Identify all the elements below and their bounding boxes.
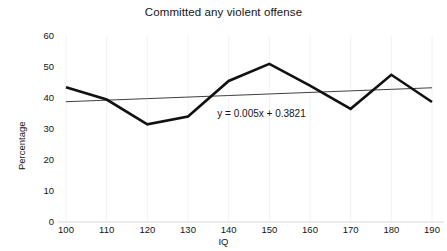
chart-container: Committed any violent offense Percentage… — [0, 0, 447, 251]
trendline-equation-annotation: y = 0.005x + 0.3821 — [217, 108, 305, 119]
plot-area — [0, 0, 447, 251]
trendline — [66, 88, 432, 102]
